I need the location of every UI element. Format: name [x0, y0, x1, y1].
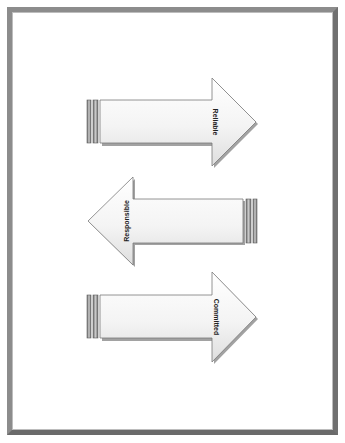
arrow-committed: Committed — [87, 272, 258, 364]
arrow-responsible: Responsible — [88, 177, 257, 267]
arrow-diagram: Reliable Responsible Committed — [0, 0, 345, 443]
arrow-shape-right — [100, 272, 256, 362]
stripes-icon — [87, 100, 98, 143]
arrow-label-reliable: Reliable — [212, 109, 219, 136]
stripes-icon — [246, 199, 257, 243]
arrow-shape-left — [88, 177, 243, 265]
arrow-reliable: Reliable — [87, 78, 258, 168]
arrow-label-committed: Committed — [213, 299, 220, 336]
arrow-label-responsible: Responsible — [123, 200, 131, 242]
arrow-shape-right — [100, 78, 256, 166]
stripes-icon — [87, 295, 98, 338]
